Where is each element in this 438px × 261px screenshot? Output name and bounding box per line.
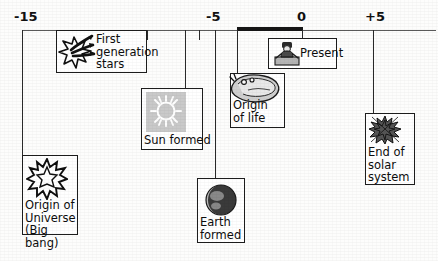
stem-origin-of-life [237, 30, 238, 73]
event-label-first-generation-stars: First generation stars [96, 33, 148, 71]
event-label-earth-formed: Earth formed [200, 216, 248, 241]
exploding-star-icon [368, 115, 402, 145]
big-bang-explosion-icon [26, 158, 68, 200]
starburst-rays-icon [58, 32, 96, 71]
timeline-figure: -15 -5 0 +5 First generation stars [0, 0, 438, 261]
tick-minus5 [199, 30, 200, 40]
sun-icon [146, 92, 186, 132]
stem-origin-of-universe [22, 30, 23, 155]
event-label-origin-of-life: Origin of life [233, 99, 285, 124]
earth-globe-icon [203, 182, 239, 218]
person-present-icon [272, 40, 302, 67]
axis-tick-label-plus5: +5 [365, 9, 385, 24]
event-label-sun-formed: Sun formed [144, 134, 212, 147]
event-label-origin-of-universe: Origin of Universe (Big bang) [25, 199, 80, 249]
stem-sun-formed [185, 30, 186, 88]
event-label-present: Present [300, 47, 340, 60]
stem-earth-formed [215, 30, 216, 178]
axis-tick-label-minus5: -5 [206, 9, 220, 24]
timeline-highlight-segment [237, 27, 303, 31]
stem-end-of-solar-system [373, 30, 374, 113]
axis-tick-label-minus15: -15 [14, 9, 38, 24]
event-label-end-of-solar-system: End of solar system [368, 146, 416, 184]
axis-tick-label-zero: 0 [297, 9, 306, 24]
